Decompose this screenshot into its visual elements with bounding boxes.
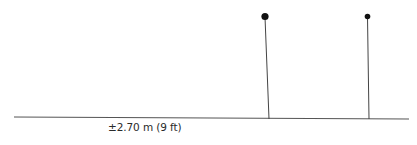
pole-1-post: [265, 17, 269, 119]
pole-2-knob-icon: [365, 14, 371, 20]
pole-1: [261, 13, 269, 119]
pole-spacing-diagram: [0, 0, 417, 145]
pole-1-knob-icon: [261, 13, 268, 20]
pole-2: [365, 14, 371, 119]
ground-line: [14, 117, 409, 119]
spacing-label: ±2.70 m (9 ft): [108, 121, 182, 133]
pole-2-post: [368, 17, 370, 119]
